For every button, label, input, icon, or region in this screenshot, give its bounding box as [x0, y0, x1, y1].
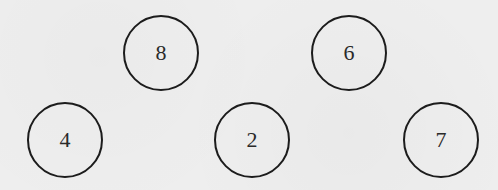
number-circle-6: 6	[311, 15, 387, 91]
number-circle-2: 2	[214, 102, 290, 178]
diagram-canvas: 8 6 4 2 7	[0, 0, 498, 190]
circle-label: 6	[344, 42, 355, 64]
number-circle-8: 8	[123, 15, 199, 91]
circle-label: 4	[60, 129, 71, 151]
circle-label: 7	[436, 129, 447, 151]
number-circle-7: 7	[403, 102, 479, 178]
circle-label: 8	[156, 42, 167, 64]
circle-label: 2	[247, 129, 258, 151]
number-circle-4: 4	[27, 102, 103, 178]
